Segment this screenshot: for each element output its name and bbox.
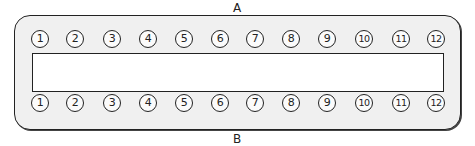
- top-pin-12: 12: [427, 30, 445, 48]
- bottom-pin-5: 5: [175, 94, 193, 112]
- bottom-pin-11: 11: [392, 94, 410, 112]
- top-pin-9: 9: [318, 30, 336, 48]
- top-pin-4: 4: [139, 30, 157, 48]
- bottom-pin-3: 3: [103, 94, 121, 112]
- top-pin-8: 8: [282, 30, 300, 48]
- bottom-pin-row: 1 2 3 4 5 6 7 8 9 10 11 12: [24, 94, 452, 112]
- top-pin-1: 1: [31, 30, 49, 48]
- top-pin-5: 5: [175, 30, 193, 48]
- bottom-pin-8: 8: [282, 94, 300, 112]
- bottom-pin-6: 6: [211, 94, 229, 112]
- bottom-pin-9: 9: [318, 94, 336, 112]
- bottom-pin-1: 1: [31, 94, 49, 112]
- bottom-pin-7: 7: [246, 94, 264, 112]
- connector-slot: [32, 53, 444, 92]
- bottom-pin-2: 2: [66, 94, 84, 112]
- top-pin-11: 11: [392, 30, 410, 48]
- top-pin-2: 2: [66, 30, 84, 48]
- bottom-pin-4: 4: [139, 94, 157, 112]
- bottom-pin-12: 12: [427, 94, 445, 112]
- top-pin-6: 6: [211, 30, 229, 48]
- side-a-label: A: [227, 2, 247, 14]
- bottom-pin-10: 10: [355, 94, 373, 112]
- top-pin-row: 1 2 3 4 5 6 7 8 9 10 11 12: [24, 30, 452, 48]
- top-pin-7: 7: [246, 30, 264, 48]
- top-pin-10: 10: [355, 30, 373, 48]
- top-pin-3: 3: [103, 30, 121, 48]
- side-b-label: B: [227, 133, 247, 145]
